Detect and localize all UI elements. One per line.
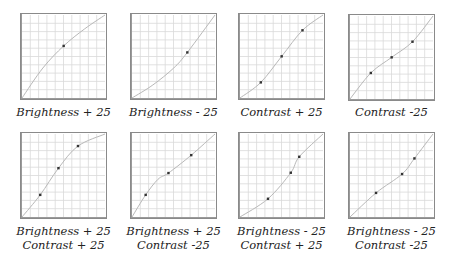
panel-label: Brightness - 25	[118, 105, 229, 119]
label-line-1: Contrast + 25	[226, 105, 337, 119]
label-line-2: Contrast -25	[118, 238, 229, 252]
curve-graph	[348, 132, 435, 219]
label-line-1: Brightness - 25	[336, 224, 447, 238]
panel-label: Brightness - 25 Contrast -25	[336, 224, 447, 252]
curve-graph	[20, 13, 107, 100]
panel-label: Brightness + 25	[8, 105, 119, 119]
curve-graph	[238, 132, 325, 219]
label-line-2: Contrast + 25	[226, 238, 337, 252]
label-line-2: Contrast -25	[336, 238, 447, 252]
curve-graph	[130, 132, 217, 219]
label-line-1: Contrast -25	[336, 105, 447, 119]
panel-label: Contrast + 25	[226, 105, 337, 119]
curve-graph	[130, 13, 217, 100]
label-line-1: Brightness - 25	[118, 105, 229, 119]
panel-label: Contrast -25	[336, 105, 447, 119]
label-line-1: Brightness + 25	[118, 224, 229, 238]
panel-label: Brightness - 25 Contrast + 25	[226, 224, 337, 252]
curve-graph	[238, 13, 325, 100]
label-line-1: Brightness - 25	[226, 224, 337, 238]
curve-graph	[348, 14, 435, 101]
panel-label: Brightness + 25 Contrast -25	[118, 224, 229, 252]
label-line-1: Brightness + 25	[8, 105, 119, 119]
panel-label: Brightness + 25 Contrast + 25	[8, 224, 119, 252]
curve-graph	[20, 132, 107, 219]
label-line-2: Contrast + 25	[8, 238, 119, 252]
label-line-1: Brightness + 25	[8, 224, 119, 238]
